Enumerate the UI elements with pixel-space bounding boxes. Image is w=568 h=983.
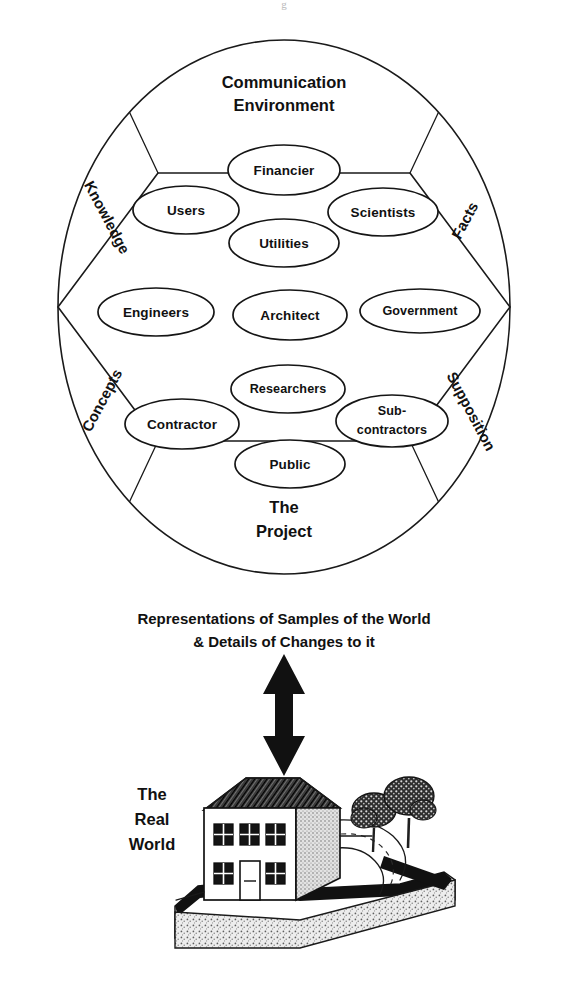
tree-right-foliage-lower (410, 800, 436, 820)
the-project-line1: The (269, 498, 298, 516)
actor-scientists[interactable]: Scientists (328, 188, 438, 236)
divider-bottom-right (410, 441, 463, 554)
actor-engineers[interactable]: Engineers (98, 288, 214, 336)
real-world-line3: World (129, 835, 175, 853)
actor-scientists-label: Scientists (351, 205, 416, 220)
actor-researchers[interactable]: Researchers (231, 365, 345, 413)
actor-nodes: Financier Users Scientists Utilities Eng (98, 145, 480, 488)
actor-contractor[interactable]: Contractor (125, 399, 239, 449)
actor-public-label: Public (269, 457, 310, 472)
segment-label-supposition: Supposition (444, 369, 500, 453)
house-window-lower-left (214, 863, 233, 884)
diagram-canvas: g Communication Environment The (0, 0, 568, 983)
actor-utilities-label: Utilities (259, 236, 309, 251)
actor-architect[interactable]: Architect (233, 290, 347, 340)
actor-sub-contractors[interactable]: Sub- contractors (336, 395, 448, 447)
tree-right-trunk (408, 818, 409, 848)
actor-users[interactable]: Users (133, 186, 239, 234)
house-window-upper-right (266, 824, 285, 845)
communication-environment-line2: Environment (234, 96, 335, 114)
actor-engineers-label: Engineers (123, 305, 189, 320)
actor-contractor-label: Contractor (147, 417, 218, 432)
segment-communication-environment: Communication Environment (222, 73, 347, 114)
actor-financier[interactable]: Financier (228, 145, 340, 195)
divider-bottom-left (105, 441, 158, 554)
bidirectional-arrow-icon (263, 654, 305, 776)
real-world-line1: The (137, 785, 166, 803)
actor-sub-contractors-label-line2: contractors (357, 423, 427, 437)
bidirectional-arrow-shape (263, 654, 305, 776)
actor-researchers-label: Researchers (250, 382, 327, 396)
house-window-upper-left (214, 824, 233, 845)
actor-government[interactable]: Government (360, 289, 480, 333)
circle-hexagon-group: Communication Environment The Project Kn… (58, 40, 510, 574)
figure-root: g Communication Environment The (0, 0, 568, 983)
actor-sub-contractors-label-line1: Sub- (378, 404, 406, 418)
actor-utilities[interactable]: Utilities (229, 219, 339, 267)
the-project-line2: Project (256, 522, 312, 540)
top-crop-fragment: g (281, 0, 287, 10)
tree-left-trunk (373, 828, 374, 852)
house-window-upper-middle (240, 824, 259, 845)
link-caption-line2: & Details of Changes to it (193, 633, 375, 650)
segment-label-facts: Facts (448, 199, 481, 242)
house-side-wall (296, 808, 340, 900)
real-world-scene: The Real World (129, 777, 455, 948)
divider-top-right (410, 60, 463, 173)
divider-top-left (105, 60, 158, 173)
communication-environment-line1: Communication (222, 73, 347, 91)
tree-left-foliage-lower (351, 808, 377, 828)
link-caption: Representations of Samples of the World … (137, 610, 430, 650)
segment-the-project: The Project (256, 498, 312, 540)
segment-label-concepts: Concepts (78, 366, 125, 434)
actor-government-label: Government (382, 304, 458, 318)
house-icon (176, 778, 372, 900)
actor-financier-label: Financier (254, 163, 316, 178)
actor-architect-label: Architect (260, 308, 320, 323)
actor-sub-contractors-ellipse[interactable] (336, 395, 448, 447)
actor-users-label: Users (167, 203, 205, 218)
house-window-lower-right (266, 863, 285, 884)
link-caption-line1: Representations of Samples of the World (137, 610, 430, 627)
real-world-line2: Real (135, 810, 170, 828)
actor-public[interactable]: Public (235, 440, 345, 488)
